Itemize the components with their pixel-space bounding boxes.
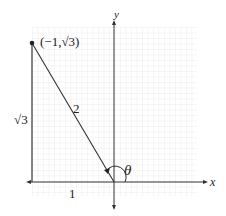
y-axis-label: y xyxy=(113,8,119,20)
vertical-side-label: √3 xyxy=(14,112,28,127)
arrow-right-icon xyxy=(203,180,208,184)
point-marker xyxy=(30,41,35,46)
x-axis-label: x xyxy=(209,175,216,189)
point-label: (−1,√3) xyxy=(40,34,79,49)
angle-label: θ xyxy=(124,162,132,178)
horizontal-side-label: 1 xyxy=(69,186,76,201)
arrow-down-icon xyxy=(112,205,116,210)
hypotenuse-label: 2 xyxy=(73,101,80,116)
arrow-left-icon xyxy=(26,180,31,184)
arrow-up-icon xyxy=(112,20,116,25)
diagram-canvas: x y (−1,√3) 2 √3 1 θ xyxy=(0,0,226,216)
